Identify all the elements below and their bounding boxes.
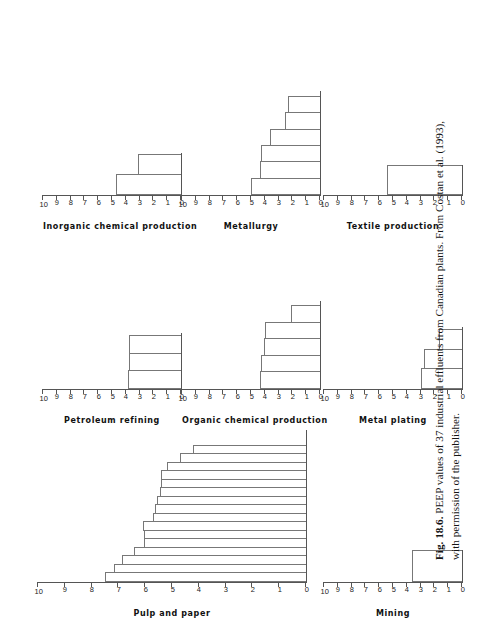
bar-series [182, 91, 320, 195]
bar-chart: Petroleum refining012345678910 [43, 333, 182, 390]
axis-tick-label: 2 [289, 395, 297, 409]
axis-tick-label: 9 [334, 395, 342, 409]
axis-tick-label: 2 [249, 588, 257, 602]
axis-tick-label-text: 7 [83, 393, 87, 401]
axis-tick-label: 6 [376, 395, 384, 409]
axis-tick-label: 4 [403, 201, 411, 215]
chart-panel: Organic chemical production012345678910 [182, 301, 321, 390]
axis-tick-label: 7 [115, 588, 123, 602]
axis-tick-label: 7 [220, 395, 228, 409]
axis-tick-label-text: 2 [152, 199, 156, 207]
axis-tick-label: 10 [321, 201, 329, 215]
axis-tick-label-text: 1 [446, 586, 450, 594]
axis-tick-label: 3 [136, 201, 144, 215]
axis-tick-label: 9 [53, 201, 61, 215]
chart-title: Pulp and paper [38, 609, 306, 618]
axis-tick-label-text: 6 [96, 393, 100, 401]
bar-series [43, 333, 181, 389]
axis-tick-label-text: 5 [110, 393, 114, 401]
bar [261, 355, 320, 373]
axis-tick-label-text: 7 [222, 199, 226, 207]
bar [261, 145, 320, 162]
axis-tick-label: 3 [275, 201, 283, 215]
axis-tick-label-text: 3 [138, 199, 142, 207]
axis-tick-label: 5 [109, 201, 117, 215]
axis-tick-label: 3 [222, 588, 230, 602]
axis-tick-label-text: 7 [222, 393, 226, 401]
axis-tick-label: 10 [40, 395, 48, 409]
axis-tick-label-text: 7 [117, 586, 121, 594]
axis-tick-label: 4 [261, 395, 269, 409]
axis-tick-label: 8 [348, 395, 356, 409]
bar [155, 505, 306, 515]
caption-text-line2: with permission of the publisher. [448, 90, 464, 560]
axis-tick-label-text: 8 [350, 586, 354, 594]
axis-tick-label: 5 [248, 201, 256, 215]
axis-tick-label-text: 9 [194, 199, 198, 207]
axis-tick-label-text: 8 [208, 393, 212, 401]
chart-title: Organic chemical production [182, 416, 320, 425]
axis-tick-label: 9 [61, 588, 69, 602]
axis-tick-label-text: 8 [350, 393, 354, 401]
bar [180, 454, 306, 464]
axis-tick-label: 6 [234, 201, 242, 215]
axis-tick-label-text: 9 [336, 199, 340, 207]
axis-tick-label-text: 7 [364, 586, 368, 594]
bar [265, 322, 320, 340]
axis-tick-label-text: 8 [208, 199, 212, 207]
axis-tick-label-text: 3 [277, 393, 281, 401]
bar [153, 513, 306, 523]
axis-tick-label-text: 9 [336, 393, 340, 401]
axis-tick-label-text: 4 [405, 393, 409, 401]
axis-tick-label-text: 4 [405, 199, 409, 207]
axis-tick-label: 7 [220, 201, 228, 215]
axis-tick-label: 4 [403, 395, 411, 409]
axis-tick-label-text: 8 [69, 199, 73, 207]
axis-tick-label: 7 [81, 201, 89, 215]
axis-tick-label: 10 [179, 201, 187, 215]
axis-tick-label: 4 [403, 588, 411, 602]
bar [134, 547, 306, 557]
axis-tick-label-text: 2 [433, 586, 437, 594]
axis-tick-label: 3 [417, 588, 425, 602]
axis-tick-label-text: 5 [391, 586, 395, 594]
axis-tick-label-text: 8 [350, 199, 354, 207]
axis-tick-label-text: 5 [391, 393, 395, 401]
bar [260, 371, 320, 389]
axis-tick-label: 8 [206, 201, 214, 215]
bar [291, 305, 320, 323]
axis-tick-label: 5 [390, 201, 398, 215]
axis-tick-label-text: 9 [55, 393, 59, 401]
axis-tick-label: 1 [276, 588, 284, 602]
axis-tick-label: 5 [390, 395, 398, 409]
axis-tick-label-text: 5 [249, 393, 253, 401]
axis-tick-label-text: 1 [304, 393, 308, 401]
axis-tick-label-text: 6 [377, 199, 381, 207]
figure-label: Fig. 18.6. [433, 516, 445, 560]
axis-tick-label: 8 [88, 588, 96, 602]
axis-tick-label: 9 [192, 201, 200, 215]
bar-series [38, 430, 306, 582]
bar-chart: Inorganic chemical production01234567891… [43, 153, 182, 196]
axis-tick-label-text: 10 [34, 588, 42, 596]
axis-tick-label: 10 [40, 201, 48, 215]
axis-tick-label: 1 [164, 201, 172, 215]
axis-tick-label: 0 [459, 588, 467, 602]
axis-tick-label: 1 [164, 395, 172, 409]
axis-tick-label-text: 10 [39, 395, 47, 403]
axis-tick-label-text: 0 [304, 586, 308, 594]
bar [288, 96, 320, 113]
axis-tick-label: 10 [321, 588, 329, 602]
axis-tick-label: 6 [95, 395, 103, 409]
axis-tick-label: 2 [150, 201, 158, 215]
axis-tick-label: 1 [303, 201, 311, 215]
axis-tick-label-text: 4 [124, 393, 128, 401]
axis-tick-label-text: 1 [277, 586, 281, 594]
plot-area: 012345678910 [182, 91, 321, 196]
bar-chart: Organic chemical production012345678910 [182, 301, 321, 390]
chart-panel: Pulp and paper012345678910 [38, 430, 307, 583]
axis-tick-label: 7 [362, 201, 370, 215]
axis-tick-label: 1 [445, 588, 453, 602]
axis-tick-label-text: 5 [110, 199, 114, 207]
